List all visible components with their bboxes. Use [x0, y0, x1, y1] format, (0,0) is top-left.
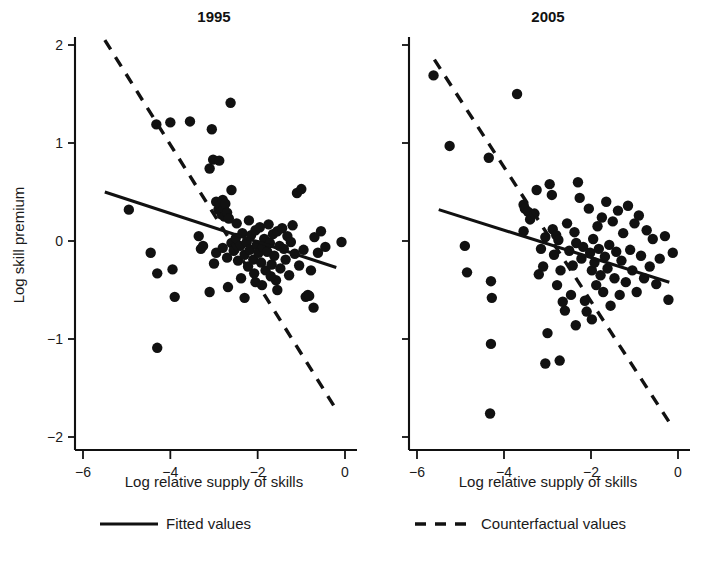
- scatter-point: [598, 287, 608, 297]
- x-tick-label-2005-0: 0: [674, 464, 682, 480]
- legend-label-fitted: Fitted values: [166, 515, 251, 532]
- x-tick-label-1995-0: 0: [341, 464, 349, 480]
- scatter-point: [645, 261, 655, 271]
- x-axis-title-2005: Log relative supply of skills: [459, 473, 637, 490]
- scatter-point: [615, 290, 625, 300]
- x-tick-label-2005--6: −6: [409, 464, 425, 480]
- scatter-point: [625, 245, 635, 255]
- scatter-point: [428, 70, 438, 80]
- scatter-point: [663, 295, 673, 305]
- scatter-point: [236, 273, 246, 283]
- scatter-point: [601, 197, 611, 207]
- scatter-point: [554, 355, 564, 365]
- legend-label-counterfactual: Counterfactual values: [481, 515, 626, 532]
- scatter-point: [152, 268, 162, 278]
- scatter-point: [198, 241, 208, 251]
- scatter-point: [609, 273, 619, 283]
- scatter-point: [460, 241, 470, 251]
- y-tick-label-0: 0: [55, 233, 63, 249]
- y-tick-label--1: −1: [47, 331, 63, 347]
- scatter-point: [294, 260, 304, 270]
- scatter-point: [574, 193, 584, 203]
- scatter-point: [266, 271, 276, 281]
- scatter-point: [316, 226, 326, 236]
- scatter-point: [204, 287, 214, 297]
- scatter-point: [485, 408, 495, 418]
- scatter-point: [636, 251, 646, 261]
- x-tick-label-1995--6: −6: [75, 464, 91, 480]
- scatter-point: [304, 291, 314, 301]
- counterfactual-line-1995: [105, 40, 336, 409]
- scatter-point: [544, 179, 554, 189]
- scatter-point: [558, 297, 568, 307]
- scatter-point: [275, 263, 285, 273]
- scatter-point: [618, 228, 628, 238]
- panel-title-2005: 2005: [531, 8, 564, 25]
- scatter-point: [209, 258, 219, 268]
- scatter-point: [631, 287, 641, 297]
- scatter-point: [648, 234, 658, 244]
- scatter-point: [226, 185, 236, 195]
- scatter-point: [641, 225, 651, 235]
- scatter-point: [298, 245, 308, 255]
- scatter-point: [272, 285, 282, 295]
- scatter-point: [553, 235, 563, 245]
- scatter-point: [284, 270, 294, 280]
- scatter-point: [170, 292, 180, 302]
- scatter-point: [547, 190, 557, 200]
- scatter-point: [239, 293, 249, 303]
- scatter-point: [538, 261, 548, 271]
- scatter-point: [540, 358, 550, 368]
- scatter-point: [320, 242, 330, 252]
- scatter-point: [486, 339, 496, 349]
- scatter-point: [214, 155, 224, 165]
- y-tick-label--2: −2: [47, 429, 63, 445]
- scatter-point: [566, 290, 576, 300]
- scatter-point: [244, 215, 254, 225]
- scatter-point: [152, 343, 162, 353]
- scatter-point: [165, 117, 175, 127]
- scatter-point: [287, 220, 297, 230]
- scatter-point: [611, 247, 621, 257]
- scatter-point: [232, 218, 242, 228]
- scatter-point: [286, 237, 296, 247]
- scatter-point: [597, 212, 607, 222]
- scatter-point: [531, 185, 541, 195]
- scatter-point: [613, 205, 623, 215]
- scatter-point: [167, 264, 177, 274]
- scatter-point: [269, 251, 279, 261]
- scatter-point: [668, 248, 678, 258]
- scatter-point: [592, 221, 602, 231]
- scatter-point: [605, 300, 615, 310]
- scatter-point: [562, 218, 572, 228]
- scatter-point: [486, 276, 496, 286]
- scatter-point: [571, 320, 581, 330]
- scatter-point: [634, 210, 644, 220]
- scatter-point: [555, 265, 565, 275]
- x-axis-title-1995: Log relative supply of skills: [125, 473, 303, 490]
- figure-container: 1995210−1−2−6−4−20Log relative supply of…: [0, 0, 701, 571]
- scatter-point: [512, 89, 522, 99]
- scatter-point: [569, 227, 579, 237]
- panel-title-1995: 1995: [197, 8, 230, 25]
- scatter-point: [185, 116, 195, 126]
- scatter-point: [587, 314, 597, 324]
- scatter-point: [223, 282, 233, 292]
- scatter-point: [296, 184, 306, 194]
- y-tick-label-2: 2: [55, 37, 63, 53]
- scatter-point: [280, 254, 290, 264]
- scatter-point: [608, 216, 618, 226]
- counterfactual-line-2005: [434, 60, 669, 423]
- scatter-point: [308, 302, 318, 312]
- scatter-point: [220, 199, 230, 209]
- scatter-point: [484, 153, 494, 163]
- scatter-point: [194, 231, 204, 241]
- scatter-point: [584, 203, 594, 213]
- scatter-point: [621, 277, 631, 287]
- scatter-point: [207, 124, 217, 134]
- scatter-point: [588, 234, 598, 244]
- y-tick-label-1: 1: [55, 135, 63, 151]
- scatter-point: [560, 305, 570, 315]
- scatter-point: [660, 231, 670, 241]
- scatter-point: [124, 204, 134, 214]
